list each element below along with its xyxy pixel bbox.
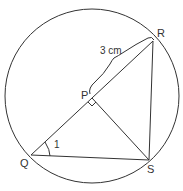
segment-rs [149,41,153,160]
label-p: P [81,89,88,101]
angle-arc [45,142,50,156]
segment-ps [92,98,149,160]
label-q: Q [20,157,29,169]
right-angle-marker [88,102,96,106]
label-r: R [157,27,165,39]
label-s: S [147,163,154,175]
angle-label: 1 [54,139,60,150]
geometry-diagram: R Q S P 3 cm 1 [0,0,183,191]
circle [5,9,179,183]
segment-qs [31,155,149,160]
measurement-label: 3 cm [100,45,122,56]
